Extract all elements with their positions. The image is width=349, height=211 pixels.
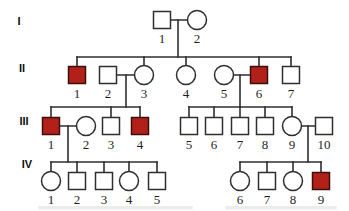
individual-number-III-10: 10	[318, 137, 331, 152]
individual-number-II-2: 2	[105, 86, 112, 101]
individual-IV-9-affected	[313, 173, 330, 190]
individual-IV-2	[69, 173, 86, 190]
individual-number-IV-2: 2	[74, 192, 81, 207]
individual-III-5	[181, 118, 198, 135]
individual-IV-4	[120, 172, 139, 191]
individual-number-IV-8: 8	[290, 192, 297, 207]
individual-II-6-affected	[251, 67, 268, 84]
generation-label-I: I	[17, 15, 20, 27]
individual-IV-3	[96, 173, 113, 190]
individual-II-4	[177, 66, 196, 85]
individual-II-1-affected	[69, 67, 86, 84]
scan-artifact-layer	[38, 206, 337, 210]
individual-number-IV-6: 6	[237, 192, 244, 207]
individual-number-III-5: 5	[186, 137, 193, 152]
individual-III-1-affected	[43, 118, 60, 135]
individual-number-IV-3: 3	[101, 192, 108, 207]
individual-III-10	[316, 118, 333, 135]
individual-number-III-2: 2	[83, 137, 90, 152]
individual-II-5	[215, 66, 234, 85]
individual-number-I-2: 2	[194, 31, 201, 46]
individual-number-IV-4: 4	[126, 192, 133, 207]
individual-number-III-1: 1	[48, 137, 55, 152]
pedigree-svg: 12123456712345678910123456789IIIIIIIV	[0, 0, 349, 211]
individual-number-I-1: 1	[159, 31, 166, 46]
individual-IV-8	[284, 172, 303, 191]
individual-number-II-5: 5	[221, 86, 228, 101]
individual-number-II-4: 4	[183, 86, 190, 101]
individual-II-7	[283, 67, 300, 84]
individual-I-1	[154, 12, 171, 29]
individual-number-III-4: 4	[137, 137, 144, 152]
individual-II-3	[135, 66, 154, 85]
individual-IV-6	[231, 172, 250, 191]
individual-number-II-6: 6	[256, 86, 263, 101]
individual-number-III-7: 7	[237, 137, 244, 152]
individual-III-3	[103, 118, 120, 135]
individual-number-IV-7: 7	[264, 192, 271, 207]
individual-number-IV-1: 1	[48, 192, 55, 207]
individual-III-9	[283, 117, 302, 136]
individual-III-7	[232, 118, 249, 135]
individual-IV-1	[42, 172, 61, 191]
pedigree-diagram: 12123456712345678910123456789IIIIIIIV	[0, 0, 349, 211]
individual-number-III-6: 6	[211, 137, 218, 152]
individual-number-II-3: 3	[141, 86, 148, 101]
individual-III-6	[206, 118, 223, 135]
individual-number-III-9: 9	[289, 137, 296, 152]
scan-smudge-left	[38, 206, 193, 210]
generation-label-III: III	[19, 115, 28, 127]
individual-II-2	[100, 67, 117, 84]
individual-III-2	[77, 117, 96, 136]
generation-label-II: II	[19, 62, 25, 74]
individual-number-II-7: 7	[288, 86, 295, 101]
individual-number-III-8: 8	[262, 137, 269, 152]
individual-number-IV-5: 5	[154, 192, 161, 207]
scan-smudge-right	[225, 206, 337, 210]
individual-III-8	[257, 118, 274, 135]
individual-IV-5	[149, 173, 166, 190]
individual-IV-7	[259, 173, 276, 190]
individual-number-II-1: 1	[74, 86, 81, 101]
individual-number-III-3: 3	[108, 137, 115, 152]
individual-III-4-affected	[132, 118, 149, 135]
generation-label-IV: IV	[22, 158, 33, 170]
individual-I-2	[188, 11, 207, 30]
individual-number-IV-9: 9	[318, 192, 325, 207]
